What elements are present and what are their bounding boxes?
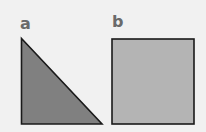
diagram-canvas bbox=[0, 0, 206, 132]
square-shape bbox=[112, 39, 194, 124]
triangle-shape bbox=[22, 39, 103, 125]
